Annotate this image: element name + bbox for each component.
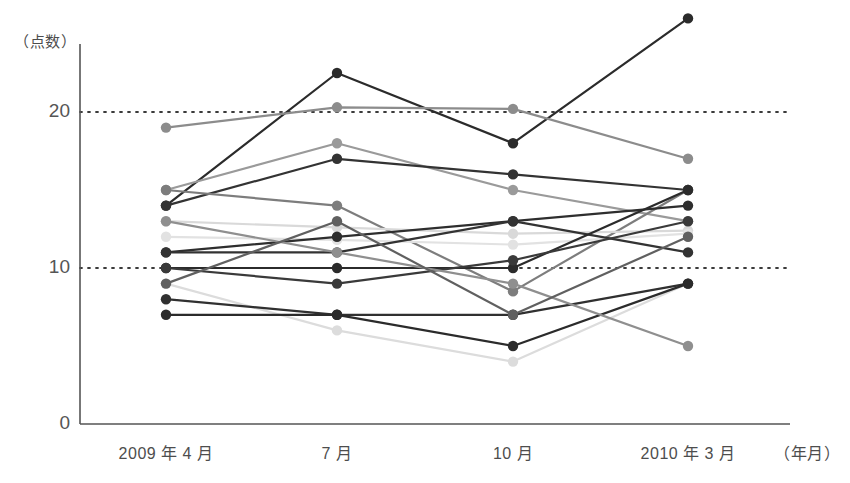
data-point xyxy=(508,341,518,351)
data-point xyxy=(161,216,171,226)
series-12 xyxy=(161,278,693,366)
data-point xyxy=(332,263,342,273)
data-point xyxy=(508,169,518,179)
data-point xyxy=(508,104,518,114)
data-point xyxy=(508,185,518,195)
data-point xyxy=(683,200,693,210)
plot-area xyxy=(0,0,850,483)
series-line xyxy=(166,284,688,362)
series-layer xyxy=(161,13,693,367)
data-point xyxy=(683,232,693,242)
data-point xyxy=(161,122,171,132)
data-point xyxy=(508,216,518,226)
data-point xyxy=(508,255,518,265)
data-point xyxy=(161,185,171,195)
data-point xyxy=(508,239,518,249)
series-5 xyxy=(161,185,693,297)
data-point xyxy=(332,232,342,242)
data-point xyxy=(332,102,342,112)
data-point xyxy=(161,200,171,210)
data-point xyxy=(508,278,518,288)
data-point xyxy=(508,356,518,366)
data-point xyxy=(683,247,693,257)
data-point xyxy=(683,13,693,23)
data-point xyxy=(683,216,693,226)
data-point xyxy=(508,228,518,238)
data-point xyxy=(683,341,693,351)
data-point xyxy=(332,154,342,164)
data-point xyxy=(332,247,342,257)
series-line xyxy=(166,221,688,233)
data-point xyxy=(332,200,342,210)
data-point xyxy=(683,185,693,195)
data-point xyxy=(161,232,171,242)
data-point xyxy=(332,216,342,226)
series-line xyxy=(166,107,688,158)
data-point xyxy=(332,138,342,148)
series-line xyxy=(166,206,688,253)
data-point xyxy=(161,310,171,320)
data-point xyxy=(332,310,342,320)
series-line xyxy=(166,221,688,346)
data-point xyxy=(161,294,171,304)
data-point xyxy=(161,263,171,273)
data-point xyxy=(508,138,518,148)
data-point xyxy=(161,247,171,257)
series-line xyxy=(166,159,688,206)
line-chart: （点数） 20 10 0 2009 年 4 月 7 月 10 月 2010 年 … xyxy=(0,0,850,483)
series-line xyxy=(166,284,688,315)
data-point xyxy=(683,154,693,164)
data-point xyxy=(332,325,342,335)
series-4 xyxy=(161,154,693,211)
data-point xyxy=(332,278,342,288)
data-point xyxy=(683,278,693,288)
data-point xyxy=(332,68,342,78)
data-point xyxy=(508,310,518,320)
data-point xyxy=(161,278,171,288)
